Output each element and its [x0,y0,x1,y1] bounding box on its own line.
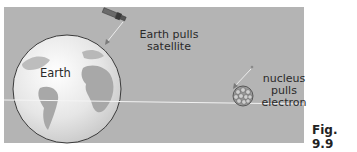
nucleus-label: nucleus pulls electron [260,73,308,109]
nucleus-label-line3: electron [260,97,308,109]
figure-caption: Fig. 9.9 [312,123,357,151]
nucleus-icon [233,86,253,106]
gravity-arrow-satellite [105,22,123,45]
satellite-icon [102,7,127,22]
earth-label: Earth [40,67,71,79]
satellite-label: Earth pulls satellite [138,29,200,53]
electron-dot [251,66,254,69]
satellite-label-line2: satellite [138,41,200,53]
globe-icon [13,35,121,143]
